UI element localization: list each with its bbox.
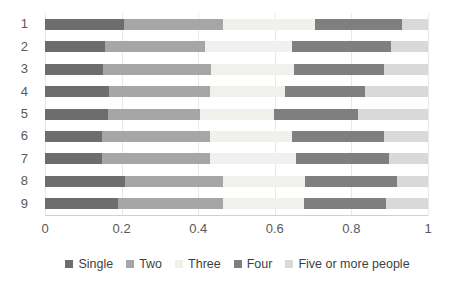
bar-row — [45, 131, 428, 142]
y-tick-label: 3 — [21, 62, 28, 75]
legend-label: Four — [247, 257, 273, 271]
bar-segment-single — [45, 109, 108, 120]
bar-row — [45, 19, 428, 30]
bar-segment-three — [200, 109, 274, 120]
x-tick-label: 0 — [41, 221, 48, 236]
bar-segment-four — [292, 131, 384, 142]
bar-segment-three — [223, 176, 305, 187]
stacked-bar-chart: 123456789 00.20.40.60.81 SingleTwoThreeF… — [0, 0, 475, 293]
bar-segment-three — [210, 86, 285, 97]
bar-segment-four — [292, 41, 391, 52]
y-tick-label: 9 — [21, 197, 28, 210]
bar-segment-single — [45, 198, 118, 209]
legend-item-three[interactable]: Three — [175, 257, 221, 271]
legend-swatch-icon — [285, 260, 293, 268]
bar-segment-single — [45, 64, 103, 75]
plot-area — [45, 13, 428, 215]
bar-segment-two — [102, 131, 210, 142]
bar-segment-two — [108, 109, 200, 120]
bar-segment-three — [211, 64, 294, 75]
bar-segment-two — [105, 41, 205, 52]
bar-segment-five-or-more-people — [358, 109, 428, 120]
legend-swatch-icon — [126, 260, 134, 268]
bar-segment-five-or-more-people — [397, 176, 428, 187]
bar-segment-two — [125, 176, 223, 187]
bar-segment-single — [45, 86, 109, 97]
gridline-x-5 — [428, 13, 429, 215]
y-axis: 123456789 — [0, 13, 40, 215]
bar-segment-five-or-more-people — [402, 19, 428, 30]
legend-label: Five or more people — [298, 257, 409, 271]
bar-segment-four — [315, 19, 402, 30]
bar-row — [45, 198, 428, 209]
bar-row — [45, 64, 428, 75]
y-tick-label: 7 — [21, 152, 28, 165]
bar-segment-four — [304, 198, 386, 209]
bar-segment-five-or-more-people — [365, 86, 428, 97]
bar-segment-two — [124, 19, 224, 30]
y-tick-label: 8 — [21, 174, 28, 187]
bar-segment-five-or-more-people — [384, 64, 428, 75]
bar-segment-single — [45, 153, 102, 164]
bar-segment-five-or-more-people — [384, 131, 428, 142]
legend-item-four[interactable]: Four — [234, 257, 273, 271]
bar-segment-five-or-more-people — [386, 198, 428, 209]
bar-segment-two — [109, 86, 210, 97]
x-axis: 00.20.40.60.81 — [0, 221, 475, 241]
legend-item-five-or-more-people[interactable]: Five or more people — [285, 257, 409, 271]
bar-segment-single — [45, 19, 124, 30]
bar-segment-four — [296, 153, 389, 164]
bar-segment-single — [45, 176, 125, 187]
bar-segment-five-or-more-people — [389, 153, 428, 164]
x-tick-label: 0.4 — [189, 221, 207, 236]
legend-item-single[interactable]: Single — [65, 257, 113, 271]
bar-segment-two — [118, 198, 223, 209]
bar-row — [45, 86, 428, 97]
bar-segment-four — [274, 109, 358, 120]
legend-swatch-icon — [234, 260, 242, 268]
legend-label: Two — [139, 257, 162, 271]
bar-segment-three — [205, 41, 292, 52]
bar-segment-four — [285, 86, 365, 97]
legend-label: Three — [188, 257, 221, 271]
bar-segment-four — [305, 176, 397, 187]
x-tick-label: 0.8 — [342, 221, 360, 236]
bar-segment-five-or-more-people — [391, 41, 428, 52]
x-tick-label: 1 — [424, 221, 431, 236]
y-tick-label: 1 — [21, 17, 28, 30]
bar-row — [45, 109, 428, 120]
legend-swatch-icon — [65, 260, 73, 268]
chart-legend: SingleTwoThreeFourFive or more people — [0, 257, 475, 271]
x-tick-label: 0.2 — [113, 221, 131, 236]
bar-row — [45, 153, 428, 164]
bar-row — [45, 41, 428, 52]
y-tick-label: 6 — [21, 129, 28, 142]
x-tick-label: 0.6 — [266, 221, 284, 236]
y-tick-label: 4 — [21, 85, 28, 98]
bar-segment-three — [210, 131, 292, 142]
legend-swatch-icon — [175, 260, 183, 268]
bar-segment-two — [103, 64, 211, 75]
bar-segment-three — [223, 198, 303, 209]
bar-segment-four — [294, 64, 384, 75]
y-tick-label: 2 — [21, 40, 28, 53]
bar-segment-three — [210, 153, 296, 164]
bar-row — [45, 176, 428, 187]
bar-segment-three — [223, 19, 315, 30]
bar-segment-single — [45, 131, 102, 142]
x-axis-line — [45, 215, 428, 216]
legend-item-two[interactable]: Two — [126, 257, 162, 271]
legend-label: Single — [78, 257, 113, 271]
bar-segment-single — [45, 41, 105, 52]
bar-segment-two — [102, 153, 210, 164]
y-tick-label: 5 — [21, 107, 28, 120]
